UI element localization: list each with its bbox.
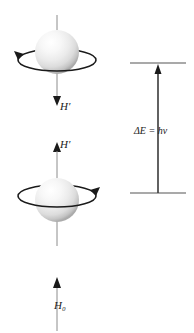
external-field-label: H₀ [54,300,66,311]
external-field-arrowhead-icon [53,277,61,288]
upper-precession-arrowhead-icon [14,51,24,60]
lower-spin-sphere [35,178,79,222]
diagram-canvas [0,0,194,333]
upper-spin-state-group [14,15,96,106]
physics-diagram: H′ H′ H₀ ΔE = hν [0,0,194,333]
transition-arrowhead-icon [155,64,162,74]
upper-field-label: H′ [60,101,70,112]
transition-energy-label: ΔE = hν [134,126,167,136]
lower-field-label: H′ [60,139,70,150]
upper-spin-sphere [35,30,79,74]
lower-precession-arrowhead-icon [90,187,100,196]
lower-spin-state-group [18,142,100,246]
